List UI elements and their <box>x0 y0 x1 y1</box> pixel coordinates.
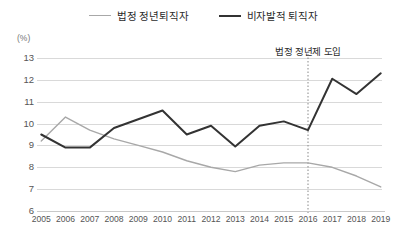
x-axis-tick-2016: 2016 <box>298 214 317 224</box>
series-line-statutory <box>41 117 381 187</box>
series-layer <box>0 0 407 237</box>
x-axis-baseline <box>37 211 385 212</box>
x-axis-tick-2014: 2014 <box>250 214 269 224</box>
x-axis-tick-2012: 2012 <box>201 214 220 224</box>
x-axis-tick-2019: 2019 <box>371 214 390 224</box>
x-axis-tick-2013: 2013 <box>226 214 245 224</box>
x-axis-tick-2009: 2009 <box>129 214 148 224</box>
x-axis-tick-2008: 2008 <box>104 214 123 224</box>
x-axis-tick-2010: 2010 <box>153 214 172 224</box>
x-axis-tick-2006: 2006 <box>56 214 75 224</box>
x-axis-tick-2011: 2011 <box>178 214 196 224</box>
x-axis-tick-2018: 2018 <box>347 214 366 224</box>
x-axis-tick-2015: 2015 <box>274 214 293 224</box>
series-line-involuntary <box>41 73 381 147</box>
x-axis-tick-2005: 2005 <box>32 214 51 224</box>
chart-container: 법정 정년퇴직자 비자발적 퇴직자 (%) 법정 정년제 도입 13121110… <box>0 0 407 237</box>
x-axis-tick-2017: 2017 <box>323 214 342 224</box>
x-axis-tick-2007: 2007 <box>80 214 99 224</box>
x-axis-labels: 2005200620072008200920102011201220132014… <box>0 214 407 232</box>
